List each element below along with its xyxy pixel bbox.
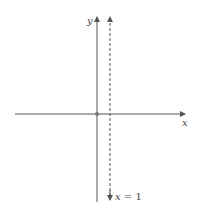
- asymptote-label-eq: = 1: [121, 191, 142, 202]
- origin-point: [95, 112, 99, 116]
- asymptote-label: x = 1: [115, 191, 142, 202]
- coordinate-plane: y x x = 1: [0, 0, 202, 212]
- y-axis-label: y: [86, 15, 93, 26]
- x-axis-label: x: [182, 117, 188, 128]
